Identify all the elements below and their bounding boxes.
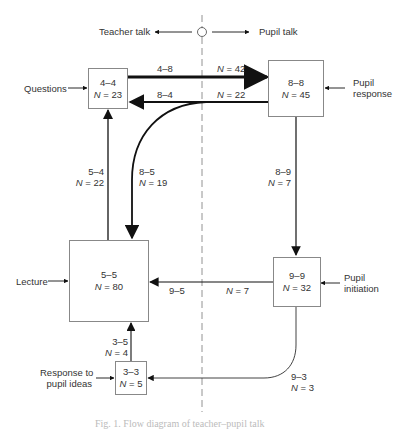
questions-label: Questions bbox=[24, 83, 67, 94]
edge-4-8-code: 4–8 bbox=[157, 63, 173, 74]
figure-caption: Fig. 1. Flow diagram of teacher–pupil ta… bbox=[95, 418, 264, 429]
node-code: 5–5 bbox=[101, 269, 117, 281]
node-questions: 4–4 N = 23 bbox=[88, 68, 128, 109]
edge-5-4-label: 5–4 N = 22 bbox=[66, 166, 104, 188]
pupil-talk-label: Pupil talk bbox=[259, 26, 298, 37]
node-count: N = 5 bbox=[120, 378, 143, 390]
edge-8-9-label: 8–9 N = 7 bbox=[256, 166, 291, 188]
edge-8-5-label: 8–5 N = 19 bbox=[139, 166, 167, 188]
edge-4-8-count: N = 42 bbox=[217, 63, 245, 74]
node-count: N = 23 bbox=[94, 89, 122, 101]
divider-origin-icon bbox=[198, 28, 207, 37]
edge-8-4-count: N = 22 bbox=[217, 89, 245, 100]
pupil-initiation-label: Pupilinitiation bbox=[344, 272, 379, 294]
response-to-pupil-ideas-label: Response topupil ideas bbox=[40, 367, 92, 389]
node-code: 8–8 bbox=[288, 77, 304, 89]
node-code: 4–4 bbox=[100, 77, 116, 89]
node-count: N = 80 bbox=[95, 281, 123, 293]
node-pupil-response: 8–8 N = 45 bbox=[268, 60, 324, 117]
node-code: 9–9 bbox=[289, 270, 305, 282]
edge-9-3 bbox=[148, 307, 296, 378]
node-count: N = 45 bbox=[282, 89, 310, 101]
teacher-talk-label: Teacher talk bbox=[99, 26, 150, 37]
node-response-to-pupil-ideas: 3–3 N = 5 bbox=[115, 361, 147, 395]
edge-9-3-label: 9–3 N = 3 bbox=[291, 371, 314, 393]
node-pupil-initiation: 9–9 N = 32 bbox=[273, 257, 321, 307]
edge-9-5-count: N = 7 bbox=[226, 285, 249, 296]
node-lecture: 5–5 N = 80 bbox=[69, 240, 149, 322]
lecture-label: Lecture bbox=[16, 276, 48, 287]
node-count: N = 32 bbox=[283, 282, 311, 294]
edge-9-5-code: 9–5 bbox=[169, 285, 185, 296]
edge-3-5-label: 3–5 N = 4 bbox=[94, 336, 128, 358]
node-code: 3–3 bbox=[123, 366, 139, 378]
pupil-response-label: Pupilresponse bbox=[353, 77, 392, 99]
edge-8-4-code: 8–4 bbox=[157, 89, 173, 100]
